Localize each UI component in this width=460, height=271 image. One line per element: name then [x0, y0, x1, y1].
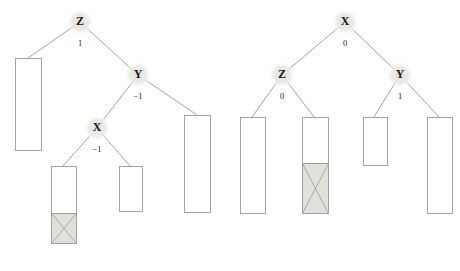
node-label: Z	[278, 67, 286, 81]
leaf-bar-5[interactable]	[241, 118, 266, 214]
leaf-bar-4[interactable]	[185, 116, 211, 213]
edge-label: −1	[92, 144, 101, 154]
tree-node-z[interactable]: Z	[268, 61, 296, 89]
leaf-bar-6[interactable]	[303, 118, 329, 214]
diagram-canvas: Z1Y−1X−1X0Z0Y1	[0, 0, 460, 271]
tree-node-z[interactable]: Z	[66, 8, 94, 36]
bar-rect	[428, 118, 453, 214]
leaf-bar-1[interactable]	[16, 59, 42, 151]
diagram-content: Z1Y−1X−1X0Z0Y1	[16, 8, 453, 244]
bar-rect	[185, 116, 211, 213]
leaf-bar-3[interactable]	[120, 167, 143, 212]
right-decision-tree: X0Z0Y1	[241, 8, 453, 214]
node-label: X	[341, 14, 350, 28]
leaf-bar-7[interactable]	[364, 118, 388, 166]
tree-diagram-svg: Z1Y−1X−1X0Z0Y1	[0, 0, 460, 271]
bar-rect	[241, 118, 266, 214]
bar-rect-upper	[52, 167, 77, 214]
node-label: Y	[396, 67, 405, 81]
tree-node-y[interactable]: Y	[386, 61, 414, 89]
node-label: Y	[134, 67, 143, 81]
bar-rect	[16, 59, 42, 151]
edge-label: 0	[280, 91, 284, 101]
edge-label: −1	[133, 91, 142, 101]
tree-node-x[interactable]: X	[83, 114, 111, 142]
edge-label: 1	[398, 91, 402, 101]
edge-label: 1	[78, 38, 82, 48]
leaf-bar-2[interactable]	[52, 167, 77, 244]
leaf-bar-8[interactable]	[428, 118, 453, 214]
edge-label: 0	[343, 38, 347, 48]
left-decision-tree: Z1Y−1X−1	[16, 8, 211, 244]
tree-node-y[interactable]: Y	[124, 61, 152, 89]
node-label: X	[93, 120, 102, 134]
bar-rect	[364, 118, 388, 166]
bar-rect	[120, 167, 143, 212]
bar-rect-upper	[303, 118, 329, 164]
node-label: Z	[76, 14, 84, 28]
tree-node-x[interactable]: X	[331, 8, 359, 36]
